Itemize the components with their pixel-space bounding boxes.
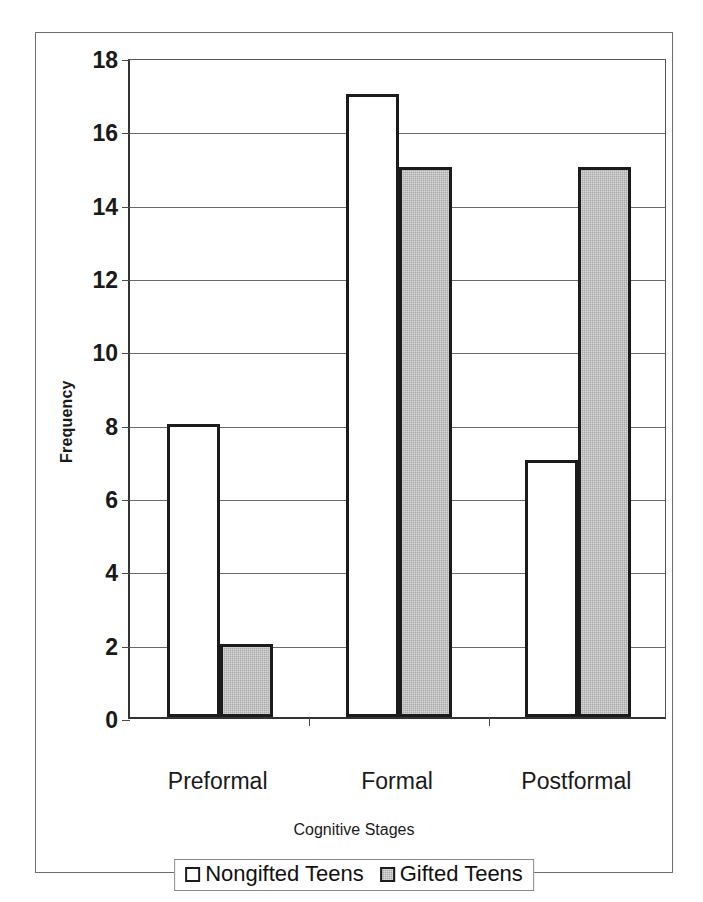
y-tick-mark-10	[122, 353, 130, 354]
legend-entry-nongifted-teens: Nongifted Teens	[185, 863, 364, 885]
y-tick-label-2: 2	[105, 635, 118, 658]
legend-label: Gifted Teens	[400, 863, 523, 885]
y-tick-mark-16	[122, 133, 130, 134]
bar-formal-gifted-teens	[399, 167, 452, 717]
white-square-swatch	[185, 867, 200, 882]
gray-square-swatch	[380, 867, 395, 882]
y-tick-mark-18	[122, 60, 130, 61]
y-tick-mark-12	[122, 280, 130, 281]
legend-label: Nongifted Teens	[205, 863, 364, 885]
y-tick-label-16: 16	[92, 122, 118, 145]
bar-postformal-gifted-teens	[578, 167, 631, 717]
bar-preformal-nongifted-teens	[167, 424, 220, 717]
y-tick-label-14: 14	[92, 195, 118, 218]
chart-legend: Nongifted TeensGifted Teens	[174, 859, 534, 891]
x-axis-label-postformal: Postformal	[521, 770, 631, 793]
chart-frame: Frequency 181614121086420 PreformalForma…	[35, 32, 673, 873]
y-tick-label-0: 0	[105, 709, 118, 732]
y-tick-mark-6	[122, 500, 130, 501]
y-tick-label-18: 18	[92, 49, 118, 72]
y-tick-label-4: 4	[105, 562, 118, 585]
y-axis-title: Frequency	[58, 380, 76, 463]
y-tick-label-12: 12	[92, 269, 118, 292]
bar-postformal-nongifted-teens	[525, 460, 578, 717]
x-axis-label-preformal: Preformal	[168, 770, 268, 793]
y-tick-mark-8	[122, 427, 130, 428]
y-tick-label-8: 8	[105, 415, 118, 438]
legend-entry-gifted-teens: Gifted Teens	[380, 863, 523, 885]
y-tick-mark-2	[122, 647, 130, 648]
y-tick-mark-4	[122, 573, 130, 574]
x-axis-title: Cognitive Stages	[36, 821, 672, 839]
y-tick-mark-0	[122, 720, 130, 721]
y-tick-label-6: 6	[105, 489, 118, 512]
category-separator-tick	[309, 717, 310, 726]
category-separator-tick	[489, 717, 490, 726]
bar-preformal-gifted-teens	[220, 644, 273, 717]
plot-area: 181614121086420	[128, 59, 666, 719]
y-tick-mark-14	[122, 207, 130, 208]
bar-formal-nongifted-teens	[346, 94, 399, 717]
y-tick-label-10: 10	[92, 342, 118, 365]
x-axis-label-formal: Formal	[361, 770, 433, 793]
